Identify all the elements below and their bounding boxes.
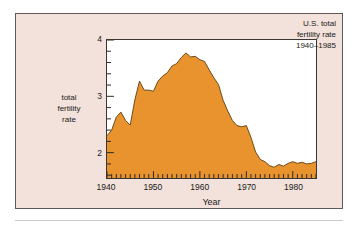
x-tick-label: 1950	[138, 183, 168, 192]
chart-title-line-3: 1940–1985	[296, 40, 336, 51]
figure-panel: U.S. total fertility rate 1940–1985 tota…	[15, 13, 343, 209]
y-tick-label: 3	[88, 92, 102, 101]
area-fill	[107, 53, 316, 178]
chart-title-line-2: fertility rate	[296, 29, 336, 40]
area-chart-svg	[107, 40, 316, 178]
y-tick-label: 2	[88, 149, 102, 158]
x-tick-label: 1940	[91, 183, 121, 192]
y-axis-label-line-3: rate	[38, 114, 100, 125]
x-tick-label: 1970	[232, 183, 262, 192]
figure-page: U.S. total fertility rate 1940–1985 tota…	[0, 0, 359, 226]
chart-title: U.S. total fertility rate 1940–1985	[296, 18, 336, 51]
x-tick-label: 1960	[185, 183, 215, 192]
y-tick-label: 4	[88, 35, 102, 44]
y-axis-label-line-2: fertility	[38, 103, 100, 114]
bottom-divider	[15, 220, 343, 221]
chart-title-line-1: U.S. total	[296, 18, 336, 29]
x-tick-label: 1980	[279, 183, 309, 192]
x-axis-label: Year	[106, 197, 317, 207]
plot-area	[106, 39, 317, 179]
